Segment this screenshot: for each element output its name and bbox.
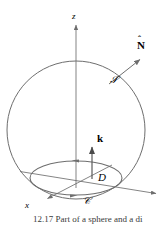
curve-label: 𝒞 [83,196,90,206]
normal-hat-accent: ˆ [138,35,141,44]
x-axis-label: x [25,201,29,210]
disk-label: D [98,172,106,183]
surface-label: 𝒮 [110,75,118,85]
figure-caption: 12.17 Part of a sphere and a di [33,214,165,226]
z-axis-label: z [72,12,76,21]
y-axis [20,172,156,194]
k-vector-label: k [97,133,103,144]
